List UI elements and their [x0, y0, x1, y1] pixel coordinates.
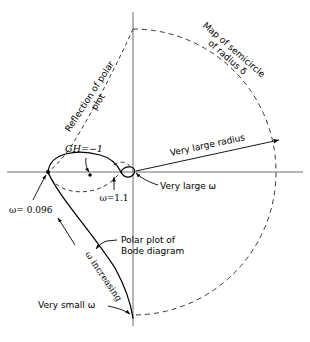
gh-minus-one-dot — [88, 173, 91, 176]
very-large-radius-label: Very large radius — [169, 132, 246, 158]
omega-0096-dot — [46, 170, 50, 174]
omega-increasing-text: ω increasing — [83, 250, 124, 304]
gh-minus-one-label: GH=−1 — [65, 143, 103, 154]
nyquist-diagram-svg: Map of semicircle of radius δ Reflection… — [0, 0, 310, 342]
mirror-loop-group — [48, 162, 131, 192]
omega-0096-label: ω= 0.096 — [9, 205, 53, 215]
axes-group — [7, 12, 303, 326]
reflection-label: Reflection of polar plot — [63, 59, 125, 139]
omega-0096-leader — [33, 175, 46, 200]
omega-increasing-label: ω increasing — [83, 250, 124, 304]
polar-plot-line1: Polar plot of — [121, 235, 176, 245]
marker-dots-group — [46, 170, 92, 177]
omega-11-label: ω=1.1 — [99, 193, 128, 203]
very-small-omega-leader — [108, 306, 130, 314]
gh-minus-one-leader — [86, 158, 89, 172]
map-semicircle-label: Map of semicircle of radius δ — [194, 20, 267, 87]
nyquist-figure: Map of semicircle of radius δ Reflection… — [0, 0, 310, 342]
very-large-radius-text: Very large radius — [169, 132, 246, 158]
very-large-omega-label: Very large ω — [160, 181, 216, 191]
very-large-omega-leader — [136, 173, 158, 185]
polar-plot-line2: Bode diagram — [121, 246, 184, 256]
text-labels-group: Map of semicircle of radius δ Reflection… — [9, 20, 267, 310]
reflection-line1: Reflection of polar — [63, 59, 116, 134]
very-small-omega-label: Very small ω — [38, 300, 95, 310]
omega-increasing-arrow — [58, 218, 75, 245]
mirror-main-loop — [48, 172, 121, 192]
leaders-group — [33, 140, 279, 314]
